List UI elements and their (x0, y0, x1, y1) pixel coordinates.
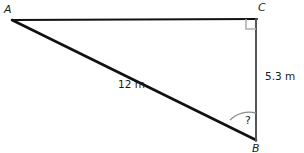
right-angle-marker-icon (246, 19, 256, 29)
side-label-vertical: 5.3 m (265, 70, 295, 82)
geometry-figure: A C B 12 m 5.3 m ? (0, 0, 304, 153)
side-label-hypotenuse: 12 m (118, 78, 145, 90)
vertex-label-c: C (258, 1, 266, 14)
triangle-diagram-canvas: A C B 12 m 5.3 m ? (0, 0, 304, 153)
vertex-label-a: A (3, 3, 12, 16)
vertex-label-b: B (252, 142, 260, 153)
side-ac-line (12, 19, 257, 20)
unknown-angle-arc-icon (230, 112, 256, 120)
unknown-angle-label: ? (245, 114, 251, 127)
